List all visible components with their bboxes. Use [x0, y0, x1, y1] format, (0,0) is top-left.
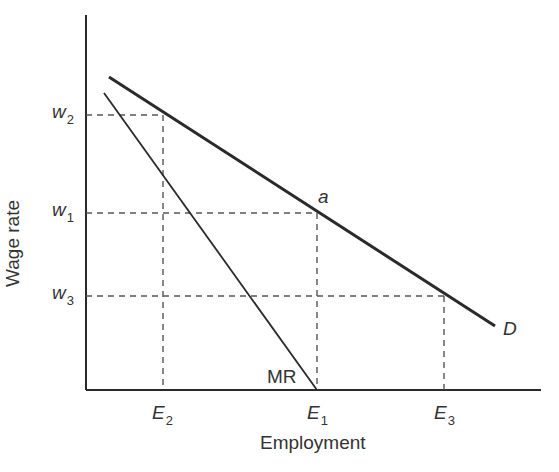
- demand-curve-label: D: [503, 318, 517, 340]
- tick-label-e2: E2: [152, 402, 173, 424]
- tick-label-w2: w2: [52, 101, 74, 123]
- tick-label-w1: w1: [52, 199, 74, 221]
- y-axis-title: Wage rate: [2, 200, 24, 287]
- marginal-revenue-curve-label: MR: [267, 366, 297, 388]
- tick-label-e3: E3: [434, 402, 455, 424]
- x-axis-title: Employment: [260, 432, 366, 454]
- tick-label-e1: E1: [307, 402, 328, 424]
- marginal-revenue-curve: [104, 93, 317, 390]
- diagram-canvas: [0, 0, 559, 472]
- tick-label-w3: w3: [52, 282, 74, 304]
- point-a-label: a: [318, 186, 329, 208]
- demand-curve: [109, 77, 495, 326]
